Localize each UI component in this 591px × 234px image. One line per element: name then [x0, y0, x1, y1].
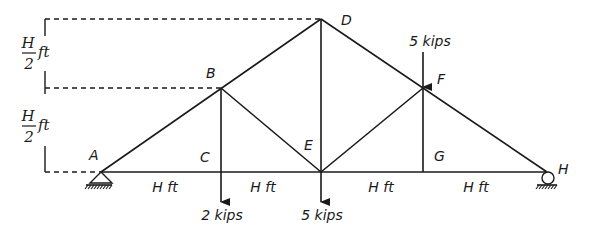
node-label-h: H	[558, 161, 569, 177]
node-label-e: E	[304, 137, 313, 153]
fraction-denominator: 2	[23, 128, 34, 146]
node-label-d: D	[341, 12, 352, 28]
height-dimension-lines	[45, 19, 321, 172]
truss-members	[101, 19, 547, 172]
span-label-1: H ft	[152, 179, 178, 195]
node-label-b: B	[206, 65, 216, 81]
node-label-f: F	[437, 71, 446, 87]
member-top-chord-left	[101, 19, 321, 172]
load-label-e: 5 kips	[301, 207, 343, 223]
fraction-numerator: H	[20, 34, 35, 52]
span-label-4: H ft	[463, 179, 489, 195]
roller-support-icon	[536, 172, 557, 189]
pin-support-icon	[85, 172, 112, 189]
span-label-3: H ft	[368, 179, 394, 195]
fraction-unit: ft	[37, 43, 51, 61]
fraction-denominator: 2	[23, 55, 34, 73]
load-label-f: 5 kips	[409, 33, 451, 49]
height-label-upper: H 2 ft	[20, 34, 50, 73]
load-label-c: 2 kips	[201, 207, 243, 223]
member-be	[221, 88, 321, 172]
node-label-g: G	[434, 148, 445, 164]
node-label-c: C	[200, 149, 210, 165]
member-ef	[321, 88, 423, 172]
span-label-2: H ft	[250, 179, 276, 195]
truss-diagram: H 2 ft H 2 ft	[0, 0, 591, 234]
fraction-unit: ft	[37, 116, 51, 134]
fraction-numerator: H	[20, 107, 35, 125]
height-label-lower: H 2 ft	[20, 107, 50, 146]
node-label-a: A	[88, 147, 99, 163]
